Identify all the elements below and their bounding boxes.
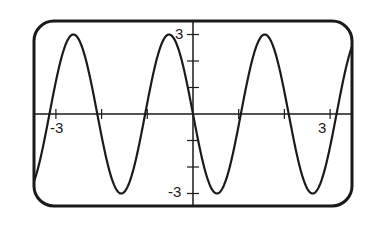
- y-max-label: 3: [175, 25, 183, 42]
- x-max-label: 3: [318, 119, 326, 136]
- y-min-label: -3: [168, 183, 181, 200]
- x-min-label: -3: [50, 119, 63, 136]
- chart: -3 3 3 -3: [0, 0, 366, 225]
